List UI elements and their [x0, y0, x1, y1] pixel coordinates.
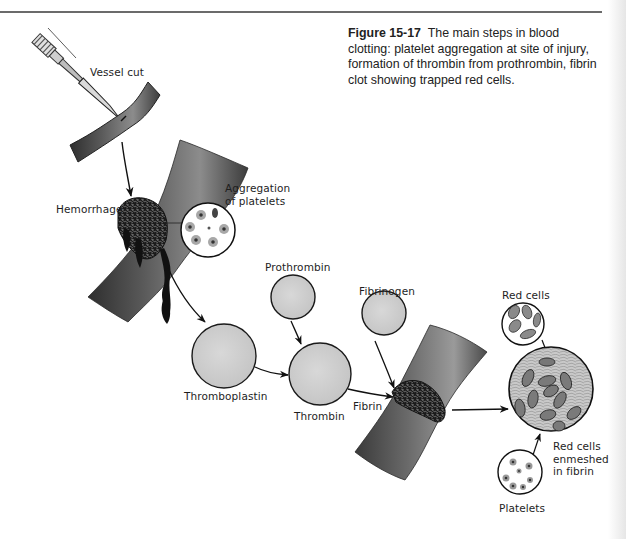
- label-aggregation: Aggregation of platelets: [225, 182, 290, 207]
- label-fibrinogen: Fibrinogen: [359, 285, 415, 298]
- label-enmeshed-line3: in fibrin: [553, 465, 609, 478]
- label-aggregation-line1: Aggregation: [225, 182, 290, 195]
- label-fibrin: Fibrin: [353, 400, 382, 413]
- label-vessel-cut: Vessel cut: [90, 66, 144, 79]
- enmeshed-red-cells-inset: [509, 347, 593, 431]
- cut-vessel: [70, 82, 160, 162]
- label-thromboplastin: Thromboplastin: [184, 390, 267, 403]
- thromboplastin-circle: [192, 324, 256, 388]
- label-enmeshed-line2: enmeshed: [553, 453, 609, 466]
- arrow-cut-to-hemorrhage: [122, 142, 131, 196]
- arrow-to-thromboplastin: [168, 268, 205, 322]
- prothrombin-circle: [271, 275, 315, 319]
- arrow-thrombin-to-fibrin: [348, 389, 393, 397]
- fibrinogen-circle: [362, 291, 406, 335]
- label-prothrombin: Prothrombin: [265, 261, 331, 274]
- platelets-inset: [498, 450, 542, 494]
- arrow-clot-to-enmeshed: [452, 409, 508, 410]
- arrow-thromboplastin-to-thrombin: [255, 367, 288, 375]
- label-hemorrhage: Hemorrhage: [56, 203, 123, 216]
- arrow-platelets-to-enmeshed: [533, 434, 540, 455]
- label-red-cells-enmeshed: Red cells enmeshed in fibrin: [553, 440, 609, 478]
- label-aggregation-line2: of platelets: [225, 195, 290, 208]
- arrow-prothrombin-to-thrombin: [291, 321, 301, 344]
- label-red-cells: Red cells: [502, 289, 550, 302]
- arrow-fibrinogen-to-fibrin: [375, 341, 394, 388]
- platelet-aggregation-inset: [181, 203, 235, 257]
- red-cells-inset: [502, 303, 544, 345]
- label-platelets: Platelets: [499, 502, 545, 515]
- label-enmeshed-line1: Red cells: [553, 440, 609, 453]
- label-thrombin: Thrombin: [294, 410, 345, 423]
- thrombin-circle: [289, 343, 351, 405]
